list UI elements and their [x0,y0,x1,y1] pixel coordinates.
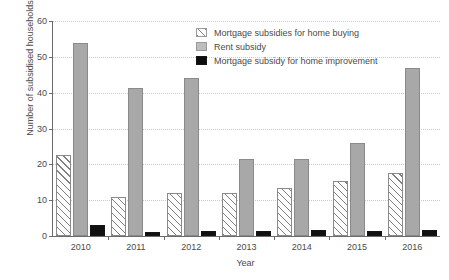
bar-chart-figure: Number of subsidised households (thousan… [0,0,449,280]
bar-2013-series-0 [222,193,237,236]
bar-2014-series-1 [294,159,309,236]
x-tick-mark [329,236,330,240]
bar-2010-series-2 [90,225,105,236]
x-tick-label-2010: 2010 [71,242,91,252]
legend-swatch-icon-series-0 [196,28,207,37]
legend-label-series-0: Mortgage subsidies for home buying [214,28,359,38]
y-tick-mark [49,236,53,237]
x-tick-mark [164,236,165,240]
bar-2014-series-2 [311,230,326,236]
bar-group-2010: 2010 [53,21,108,236]
legend-item-mortgage-subsidies-home-buying: Mortgage subsidies for home buying [196,26,378,39]
y-tick-label: 20 [37,159,47,169]
legend-swatch-icon-series-1 [196,42,207,51]
legend-label-series-1: Rent subsidy [214,42,266,52]
legend-label-series-2: Mortgage subsidy for home improvement [214,56,378,66]
chart-legend: Mortgage subsidies for home buying Rent … [196,26,378,68]
bar-2016-series-0 [388,173,403,236]
x-tick-mark [274,236,275,240]
y-tick-label: 30 [37,124,47,134]
y-axis-title: Number of subsidised households (thousan… [23,0,37,143]
bar-2014-series-0 [277,188,292,236]
bar-group-bars [108,21,163,236]
y-tick-label: 40 [37,88,47,98]
legend-swatch-icon-series-2 [196,56,207,65]
x-tick-mark [219,236,220,240]
bar-2013-series-2 [256,231,271,236]
bar-2011-series-1 [128,88,143,236]
bar-2015-series-0 [333,181,348,236]
x-tick-label-2013: 2013 [236,242,256,252]
bar-2010-series-0 [56,155,71,236]
legend-item-mortgage-subsidy-home-improvement: Mortgage subsidy for home improvement [196,54,378,67]
bar-2012-series-0 [167,193,182,236]
x-tick-label-2011: 2011 [126,242,145,252]
y-tick-label: 0 [42,231,47,241]
bar-group-2011: 2011 [108,21,163,236]
bar-group-2016: 2016 [385,21,440,236]
bar-2012-series-2 [201,231,216,236]
bar-2010-series-1 [73,43,88,236]
x-tick-label-2015: 2015 [347,242,367,252]
legend-item-rent-subsidy: Rent subsidy [196,40,378,53]
bar-2015-series-1 [350,143,365,236]
bar-2013-series-1 [239,159,254,236]
bar-2016-series-1 [405,68,420,236]
y-tick-label: 60 [37,16,47,26]
bar-2011-series-0 [111,197,126,236]
bar-group-bars [53,21,108,236]
bar-2011-series-2 [145,232,160,236]
x-axis-title: Year [52,258,439,268]
x-tick-label-2016: 2016 [402,242,422,252]
x-tick-mark [108,236,109,240]
bar-2012-series-1 [184,78,199,236]
x-tick-label-2014: 2014 [292,242,312,252]
y-tick-label: 50 [37,52,47,62]
x-tick-label-2012: 2012 [181,242,201,252]
bar-group-bars [385,21,440,236]
x-tick-mark [385,236,386,240]
bar-2015-series-2 [367,231,382,236]
y-tick-label: 10 [37,195,47,205]
bar-2016-series-2 [422,230,437,236]
